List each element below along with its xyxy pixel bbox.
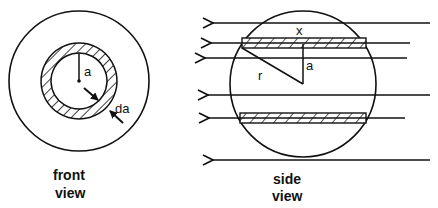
side-view: x r a side view xyxy=(205,11,430,204)
thickness-da-label: da xyxy=(115,101,130,116)
front-caption-line2: view xyxy=(55,185,85,201)
da-inner-arrow xyxy=(84,88,98,100)
radius-r-label: r xyxy=(258,68,263,83)
height-a-label: a xyxy=(306,58,314,73)
radius-a-label: a xyxy=(84,64,92,79)
front-caption-line1: front xyxy=(53,167,85,183)
diagram-canvas: a da front view x r a side view xyxy=(0,0,438,208)
side-caption-line1: side xyxy=(273,171,301,187)
side-caption-line2: view xyxy=(272,188,302,204)
chord-x-label: x xyxy=(296,23,303,38)
front-view: a da front view xyxy=(9,11,149,201)
radius-r-line xyxy=(242,48,303,84)
